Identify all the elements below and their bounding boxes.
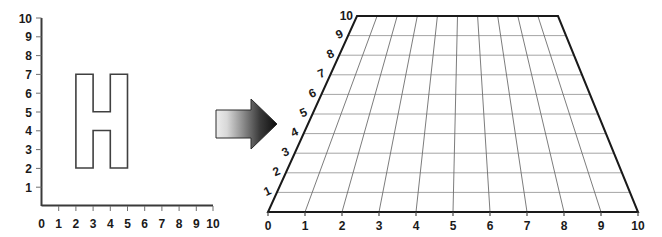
left-y-tick-8: 8 — [25, 49, 32, 63]
right-x-tick-10: 10 — [631, 219, 645, 233]
right-x-tick-8: 8 — [561, 219, 568, 233]
right-x-tick-1: 1 — [302, 219, 309, 233]
left-y-tick-3: 3 — [25, 143, 32, 157]
left-x-tick-10: 10 — [206, 217, 220, 231]
right-x-tick-4: 4 — [413, 219, 420, 233]
left-x-tick-6: 6 — [141, 217, 148, 231]
left-y-tick-4: 4 — [25, 124, 32, 138]
figure-root: 10 9 8 7 6 5 4 3 2 1 0 1 2 3 4 5 6 7 — [0, 0, 662, 237]
right-x-tick-6: 6 — [487, 219, 494, 233]
transformation-diagram: 10 9 8 7 6 5 4 3 2 1 0 1 2 3 4 5 6 7 — [0, 0, 662, 237]
left-x-tick-8: 8 — [176, 217, 183, 231]
left-x-tick-0: 0 — [38, 217, 45, 231]
left-x-tick-7: 7 — [159, 217, 166, 231]
left-y-tick-7: 7 — [25, 68, 32, 82]
left-y-tick-2: 2 — [25, 162, 32, 176]
left-x-tick-2: 2 — [73, 217, 80, 231]
right-y-tick-10: 10 — [340, 9, 354, 23]
right-x-tick-3: 3 — [376, 219, 383, 233]
left-x-tick-3: 3 — [90, 217, 97, 231]
left-y-tick-1: 1 — [25, 181, 32, 195]
left-y-tick-10: 10 — [19, 12, 33, 26]
right-x-tick-5: 5 — [450, 219, 457, 233]
left-x-tick-1: 1 — [55, 217, 62, 231]
left-x-tick-5: 5 — [124, 217, 131, 231]
right-x-tick-9: 9 — [598, 219, 605, 233]
left-y-tick-9: 9 — [25, 30, 32, 44]
right-x-tick-7: 7 — [524, 219, 531, 233]
right-x-tick-2: 2 — [339, 219, 346, 233]
left-x-tick-4: 4 — [107, 217, 114, 231]
left-x-tick-9: 9 — [193, 217, 200, 231]
left-y-tick-6: 6 — [25, 87, 32, 101]
right-x-tick-0: 0 — [265, 219, 272, 233]
left-y-tick-5: 5 — [25, 106, 32, 120]
